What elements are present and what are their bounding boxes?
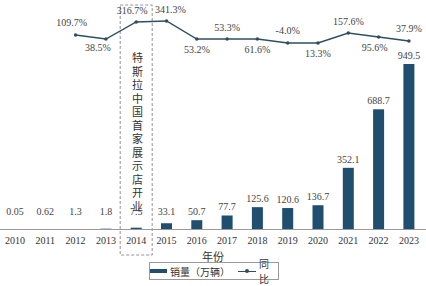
bar-value-label: 0.62 (37, 206, 55, 217)
bar (282, 208, 293, 229)
bar-swatch-icon (150, 269, 167, 273)
annotation-text: 中 (132, 93, 143, 106)
bar-series (100, 64, 414, 229)
yoy-point (104, 37, 108, 41)
yoy-point (165, 19, 169, 23)
yoy-value-label: 157.6% (333, 16, 364, 27)
bar-value-label: 949.5 (398, 50, 421, 61)
year-tick-label: 2013 (96, 235, 116, 246)
x-tick-labels: 2010201120122013201420152016201720182019… (5, 235, 419, 246)
bar-value-label: 50.7 (188, 206, 206, 217)
bar (403, 64, 414, 229)
yoy-value-label: 61.6% (244, 44, 270, 55)
legend-item-yoy: 同比 (238, 256, 278, 286)
bar-value-label: 77.7 (218, 201, 236, 212)
year-tick-label: 2023 (399, 235, 419, 246)
yoy-point (225, 37, 229, 41)
bar-value-labels: 0.050.621.31.87.533.150.777.7125.6120.61… (6, 50, 420, 217)
yoy-point (256, 37, 260, 41)
legend-item-sales: 销量（万辆） (150, 264, 228, 279)
bar (313, 205, 324, 229)
annotation-text: 家 (132, 132, 143, 146)
year-tick-label: 2020 (308, 235, 328, 246)
yoy-value-label: 95.6% (362, 42, 388, 53)
year-tick-label: 2014 (126, 235, 146, 246)
bar-value-label: 125.6 (246, 193, 269, 204)
annotation-text: 示 (132, 160, 143, 173)
annotation-text: 首 (132, 119, 143, 133)
annotation-text: 展 (132, 147, 143, 160)
bar (131, 228, 142, 229)
year-tick-label: 2019 (278, 235, 298, 246)
bar (191, 220, 202, 229)
year-tick-label: 2021 (338, 235, 358, 246)
yoy-point (195, 37, 199, 41)
yoy-point (286, 41, 290, 45)
yoy-value-label: -4.0% (276, 25, 300, 36)
bar-value-label: 688.7 (367, 95, 390, 106)
bar (252, 207, 263, 229)
bar (343, 168, 354, 229)
legend-label-sales: 销量（万辆） (170, 264, 228, 279)
bar-value-label: 120.6 (276, 194, 299, 205)
bar-value-label: 136.7 (307, 191, 330, 202)
yoy-point (134, 20, 138, 24)
bar-value-label: 1.8 (100, 206, 113, 217)
yoy-point (74, 33, 78, 37)
yoy-point (316, 41, 320, 45)
year-tick-label: 2016 (187, 235, 207, 246)
bar-value-label: 7.5 (130, 206, 143, 217)
year-tick-label: 2012 (66, 235, 86, 246)
line-marker-icon (238, 271, 255, 272)
year-tick-label: 2017 (217, 235, 237, 246)
yoy-point (407, 39, 411, 43)
year-tick-label: 2015 (157, 235, 177, 246)
legend-label-yoy: 同比 (259, 256, 278, 286)
annotation-text: 特 (132, 51, 143, 65)
yoy-value-labels: 109.7%38.5%316.7%341.3%53.2%53.3%61.6%-4… (56, 4, 422, 59)
yoy-point (377, 35, 381, 39)
bar-value-label: 1.3 (69, 206, 82, 217)
yoy-point (347, 31, 351, 35)
annotation-text: 斯 (132, 66, 143, 79)
year-tick-label: 2011 (35, 235, 55, 246)
annotation-text: 国 (132, 106, 143, 119)
year-tick-label: 2010 (5, 235, 25, 246)
bar (222, 215, 233, 229)
yoy-value-label: 53.2% (184, 44, 210, 55)
legend: 销量（万辆） 同比 (149, 262, 279, 280)
bar (161, 223, 172, 229)
annotation-box: 特斯拉中国首家展示店开业 (120, 5, 152, 255)
annotation-text: 开 (132, 187, 143, 200)
yoy-value-label: 37.9% (396, 23, 422, 34)
yoy-value-label: 109.7% (56, 17, 87, 28)
yoy-value-label: 316.7% (117, 5, 148, 16)
annotation-text: 拉 (132, 78, 143, 92)
year-tick-label: 2018 (247, 235, 267, 246)
bar-value-label: 352.1 (337, 154, 360, 165)
yoy-value-label: 53.3% (214, 22, 240, 33)
bar (373, 109, 384, 229)
yoy-value-label: 13.3% (305, 48, 331, 59)
annotation-text: 店 (132, 173, 143, 187)
bar-value-label: 0.05 (6, 206, 24, 217)
bar-value-label: 33.1 (158, 206, 176, 217)
yoy-value-label: 341.3% (155, 4, 186, 15)
year-tick-label: 2022 (369, 235, 389, 246)
yoy-value-label: 38.5% (85, 42, 111, 53)
